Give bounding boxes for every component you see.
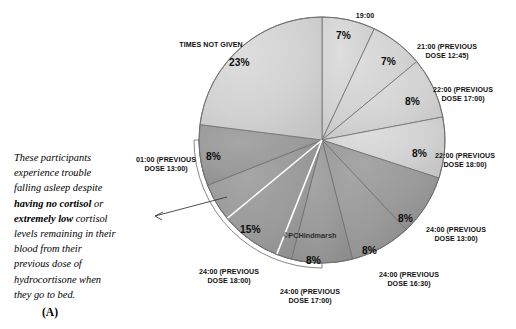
slice-category-label-1: 19:00 [343, 12, 387, 21]
slice-category-label-4: 22:00 (PREVIOUS DOSE 18:00) [422, 152, 508, 171]
slice-category-label-7: 24:00 (PREVIOUS DOSE 17:00) [267, 288, 353, 307]
annotation-line-9: hydrocortisone when [14, 274, 101, 285]
slice-percent-label-9: 8% [206, 151, 221, 162]
figure-panel: ©PCHindmarsh 19:007%21:00 (PREVIOUS DOSE… [0, 0, 516, 329]
annotation-bold-2: extremely low [14, 213, 73, 224]
slice-percent-label-8: 15% [240, 224, 261, 235]
annotation-line-3: falling asleep despite [14, 182, 102, 193]
annotation-line-8: previous dose of [14, 258, 82, 269]
annotation-line-10: they go to bed. [14, 289, 75, 300]
slice-category-label-5: 24:00 (PREVIOUS DOSE 13:00) [413, 226, 499, 245]
annotation-text: These participants experience trouble fa… [14, 150, 166, 302]
slice-category-label-10: TIMES NOT GIVEN [166, 41, 256, 50]
annotation-line-6: levels remaining in their [14, 228, 115, 239]
annotation-line-1: These participants [14, 152, 91, 163]
slice-percent-label-3: 8% [405, 96, 420, 107]
annotation-mid-1: or [91, 198, 103, 209]
watermark: ©PCHindmarsh [283, 231, 336, 240]
annotation-bold-1: having no cortisol [14, 198, 91, 209]
slice-percent-label-4: 8% [412, 148, 427, 159]
annotation-mid-2: cortisol [73, 213, 107, 224]
annotation-line-7: blood from their [14, 243, 82, 254]
slice-category-label-8: 24:00 (PREVIOUS DOSE 18:00) [186, 268, 272, 287]
slice-category-label-3: 22:00 (PREVIOUS DOSE 17:00) [420, 86, 506, 105]
slice-percent-label-7: 8% [306, 255, 321, 266]
slice-percent-label-2: 7% [381, 56, 396, 67]
slice-category-label-2: 21:00 (PREVIOUS DOSE 12:45) [404, 43, 490, 62]
slice-category-label-6: 24:00 (PREVIOUS DOSE 16:30) [366, 271, 452, 290]
slice-percent-label-5: 8% [398, 213, 413, 224]
pie-slice-10[interactable] [200, 17, 322, 140]
slice-percent-label-10: 23% [229, 57, 250, 68]
panel-letter: (A) [42, 306, 58, 318]
annotation-line-2: experience trouble [14, 167, 91, 178]
slice-percent-label-6: 8% [362, 245, 377, 256]
slice-percent-label-1: 7% [336, 30, 351, 41]
